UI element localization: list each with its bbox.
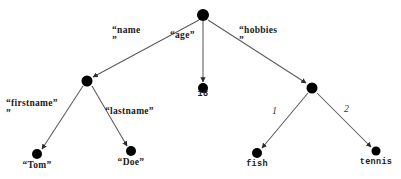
node-label-age-value: 18 xyxy=(198,90,209,99)
edge-label-age: “age” xyxy=(170,31,195,41)
node-label-hobby2-value: tennis xyxy=(360,158,392,167)
node-hobby2-value xyxy=(372,147,381,156)
node-label-hobby1-value: fish xyxy=(246,160,268,169)
edge-label-name: “name ” xyxy=(112,26,140,46)
node-hobbies-array xyxy=(307,83,318,94)
edge-label-index-1: 1 xyxy=(272,106,277,117)
node-name-object xyxy=(82,76,93,87)
edge-label-index-2: 2 xyxy=(344,104,349,115)
edge-label-firstname: “firstname” ” xyxy=(6,99,58,119)
edge-hobby1 xyxy=(262,93,308,148)
edge-label-lastname: “lastname” xyxy=(105,107,154,117)
node-group xyxy=(32,9,381,159)
node-hobby1-value xyxy=(252,148,262,158)
edge-name xyxy=(93,20,199,77)
node-label-lastname-value: “Doe” xyxy=(118,158,145,168)
node-root xyxy=(197,9,209,21)
edge-label-hobbies: “hobbies ” xyxy=(239,26,277,46)
json-tree-diagram: “name ” “age” “hobbies ” “firstname” ” “… xyxy=(0,0,401,179)
node-lastname-value xyxy=(126,146,136,156)
node-label-firstname-value: “Tom” xyxy=(22,161,51,171)
edge-hobby2 xyxy=(317,93,371,147)
node-firstname-value xyxy=(32,149,42,159)
